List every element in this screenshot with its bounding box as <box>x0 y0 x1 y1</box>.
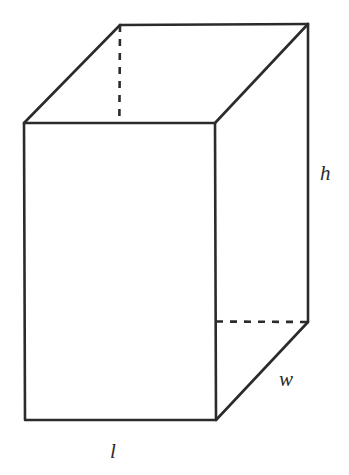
height-label: h <box>320 161 331 185</box>
width-label: w <box>279 367 293 391</box>
length-label: l <box>110 439 116 463</box>
top-back-edge <box>120 24 308 25</box>
prism-diagram-canvas: h w l <box>0 0 349 475</box>
front-face-fill <box>24 123 216 420</box>
prism-figure: h w l <box>0 0 349 475</box>
